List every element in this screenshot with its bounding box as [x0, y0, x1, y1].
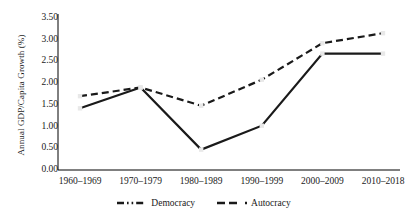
x-tick-label: 1990–1999	[232, 176, 292, 186]
legend-item-democracy[interactable]: Democracy	[117, 198, 195, 208]
x-tick-label: 2010–2018	[353, 176, 408, 186]
dashed-line-icon	[217, 198, 247, 208]
chart-legend: DemocracyAutocracy	[0, 198, 408, 208]
legend-label: Autocracy	[251, 198, 291, 208]
dash-dot-line-icon	[117, 198, 147, 208]
chart-figure: Annual GDP/Capita Growth (%) 0.000.501.0…	[0, 0, 408, 221]
legend-label: Democracy	[151, 198, 195, 208]
x-tick-label: 1960–1969	[50, 176, 110, 186]
x-tick-label: 2000–2009	[292, 176, 352, 186]
x-axis-tick-labels: 1960–19691970–19791980–19891990–19992000…	[0, 0, 408, 200]
x-tick-label: 1970–1979	[111, 176, 171, 186]
legend-item-autocracy[interactable]: Autocracy	[217, 198, 291, 208]
x-tick-label: 1980–1989	[171, 176, 231, 186]
